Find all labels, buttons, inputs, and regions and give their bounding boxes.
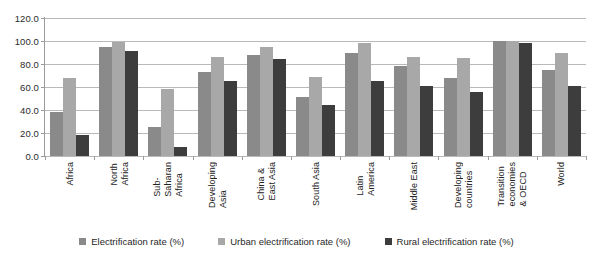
x-axis-category-label: NorthAfrica <box>94 160 143 222</box>
bar-group <box>537 18 586 156</box>
bar-group <box>389 18 438 156</box>
plot-area: 0.020.040.060.080.0100.0120.0 <box>45 18 586 156</box>
bar-group <box>193 18 242 156</box>
x-axis-category-label: World <box>537 160 586 222</box>
bar-group <box>45 18 94 156</box>
legend-label: Electrification rate (%) <box>91 236 184 247</box>
bar <box>99 47 112 156</box>
bar <box>345 53 358 157</box>
bar <box>371 81 384 156</box>
category-label-line: Sub- <box>152 162 162 197</box>
y-axis-tick-label: 0.0 <box>25 151 39 162</box>
category-label-line: Developing <box>207 162 217 208</box>
category-label-line: Africa <box>119 162 129 186</box>
bar <box>296 97 309 156</box>
legend-label: Urban electrification rate (%) <box>230 236 350 247</box>
category-label-line: World <box>556 162 566 186</box>
bar-group <box>242 18 291 156</box>
bar-groups <box>45 18 586 156</box>
bar <box>50 112 63 156</box>
x-axis-category-label: Transitioneconomies& OECD <box>488 160 537 222</box>
bar <box>506 41 519 156</box>
category-label-line: economies <box>507 162 517 206</box>
bar <box>555 53 568 157</box>
category-label-line: America <box>365 162 375 196</box>
legend-swatch-icon <box>385 238 392 245</box>
category-label-line: North <box>108 162 118 186</box>
category-label-line: Developing <box>453 162 463 208</box>
x-axis-category-label: Africa <box>45 160 94 222</box>
x-axis-tick <box>586 156 587 160</box>
bar <box>309 77 322 156</box>
bar-chart: 0.020.040.060.080.0100.0120.0 AfricaNort… <box>0 0 593 259</box>
bar <box>420 86 433 156</box>
legend-swatch-icon <box>79 238 86 245</box>
y-axis-tick-label: 120.0 <box>15 13 39 24</box>
bar <box>444 78 457 156</box>
category-label-line: countries <box>464 162 474 208</box>
category-label-line: Latin <box>354 162 364 196</box>
chart-legend: Electrification rate (%)Urban electrific… <box>0 236 593 247</box>
bar <box>76 135 89 156</box>
bar <box>394 66 407 156</box>
x-axis-category-label: Middle East <box>389 160 438 222</box>
legend-label: Rural electrification rate (%) <box>397 236 514 247</box>
bar <box>568 86 581 156</box>
x-axis-category-label: DevelopingAsia <box>193 160 242 222</box>
bar <box>519 43 532 156</box>
category-label-line: East Asia <box>267 162 277 200</box>
x-axis-category-label: Sub-SaharanAfrica <box>143 160 192 222</box>
bar <box>112 42 125 156</box>
x-axis-category-label: China &East Asia <box>242 160 291 222</box>
bar-group <box>291 18 340 156</box>
bar <box>260 47 273 156</box>
category-label-line: South Asia <box>311 162 321 206</box>
bar-group <box>143 18 192 156</box>
bar-group <box>94 18 143 156</box>
category-label-line: Africa <box>65 162 75 186</box>
category-label-line: & OECD <box>518 162 528 206</box>
x-axis-category-label: Developingcountries <box>439 160 488 222</box>
legend-item[interactable]: Electrification rate (%) <box>79 236 184 247</box>
bar <box>211 57 224 156</box>
bar <box>470 92 483 156</box>
y-axis-tick-label: 60.0 <box>20 82 39 93</box>
legend-swatch-icon <box>218 238 225 245</box>
category-label-line: Saharan <box>163 162 173 197</box>
bar <box>161 89 174 156</box>
bar <box>273 59 286 156</box>
y-axis-tick-label: 80.0 <box>20 59 39 70</box>
bar <box>125 51 138 156</box>
category-label-line: Transition <box>496 162 506 206</box>
bar-group <box>439 18 488 156</box>
bar <box>407 57 420 156</box>
x-axis-category-labels: AfricaNorthAfricaSub-SaharanAfricaDevelo… <box>45 160 586 222</box>
x-axis-category-label: LatinAmerica <box>340 160 389 222</box>
legend-item[interactable]: Urban electrification rate (%) <box>218 236 350 247</box>
x-axis-category-label: South Asia <box>291 160 340 222</box>
bar <box>174 147 187 156</box>
legend-item[interactable]: Rural electrification rate (%) <box>385 236 514 247</box>
bar <box>148 127 161 156</box>
bar <box>493 41 506 156</box>
bar <box>358 43 371 156</box>
bar <box>247 55 260 156</box>
bar <box>198 72 211 156</box>
y-axis-tick-label: 100.0 <box>15 36 39 47</box>
bar <box>224 81 237 156</box>
category-label-line: Africa <box>174 162 184 197</box>
bar-group <box>488 18 537 156</box>
category-label-line: China & <box>256 162 266 200</box>
category-label-line: Middle East <box>409 162 419 210</box>
category-label-line: Asia <box>218 162 228 208</box>
y-axis-tick-label: 40.0 <box>20 105 39 116</box>
bar <box>457 58 470 156</box>
bar <box>63 78 76 156</box>
bar <box>542 70 555 156</box>
y-axis-tick-label: 20.0 <box>20 128 39 139</box>
gridline <box>45 156 586 157</box>
bar-group <box>340 18 389 156</box>
bar <box>322 105 335 156</box>
